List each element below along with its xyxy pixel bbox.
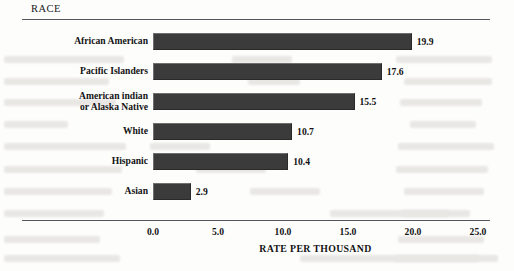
bar-and-value: 19.9 — [153, 26, 433, 56]
bar-category-label: White — [123, 116, 153, 146]
x-axis-tick-label: 15.0 — [318, 226, 378, 237]
x-axis-tick-label: 10.0 — [253, 226, 313, 237]
x-axis-title: RATE PER THOUSAND — [153, 243, 478, 254]
bar-and-value: 10.4 — [153, 146, 310, 176]
bar-row: White10.7 — [0, 116, 514, 146]
bar — [153, 63, 382, 80]
bar-value-label: 10.7 — [297, 126, 314, 137]
x-axis-tick-label: 25.0 — [448, 226, 508, 237]
bar-row: Asian2.9 — [0, 176, 514, 206]
bar-category-label-line: White — [123, 125, 148, 137]
bar-category-label-line: Asian — [125, 185, 148, 197]
bar — [153, 33, 412, 50]
bar — [153, 153, 288, 170]
bar-value-label: 17.6 — [387, 66, 404, 77]
race-rate-bar-chart: RACE RATE PER THOUSAND African American1… — [0, 0, 514, 271]
bar-category-label-line: African American — [74, 35, 148, 47]
bar-row: African American19.9 — [0, 26, 514, 56]
bar-and-value: 2.9 — [153, 176, 208, 206]
bar-row: Hispanic10.4 — [0, 146, 514, 176]
bar-category-label-line: or Alaska Native — [80, 101, 148, 113]
bar-category-label-line: Pacific Islanders — [80, 65, 148, 77]
bar-row: American indianor Alaska Native15.5 — [0, 86, 514, 116]
bar-value-label: 15.5 — [360, 96, 377, 107]
bar-value-label: 10.4 — [293, 156, 310, 167]
bar-category-label: African American — [74, 26, 153, 56]
x-axis-tick-label: 0.0 — [123, 226, 183, 237]
bar-category-label: American indianor Alaska Native — [79, 86, 153, 116]
bar-category-label: Asian — [125, 176, 153, 206]
bar-category-label: Pacific Islanders — [80, 56, 153, 86]
bar-and-value: 10.7 — [153, 116, 314, 146]
top-rule-divider — [22, 19, 490, 20]
bar-category-label-line: Hispanic — [112, 155, 148, 167]
x-axis-line — [22, 220, 490, 221]
bar-and-value: 17.6 — [153, 56, 404, 86]
bar — [153, 123, 292, 140]
bar — [153, 93, 355, 110]
bar-and-value: 15.5 — [153, 86, 376, 116]
bar-value-label: 2.9 — [196, 186, 208, 197]
bar-category-label: Hispanic — [112, 146, 153, 176]
chart-group-title: RACE — [31, 3, 61, 14]
bar-category-label-line: American indian — [79, 90, 148, 102]
x-axis-tick-label: 5.0 — [188, 226, 248, 237]
bar-value-label: 19.9 — [417, 36, 434, 47]
bar — [153, 183, 191, 200]
bar-row: Pacific Islanders17.6 — [0, 56, 514, 86]
x-axis-tick-label: 20.0 — [383, 226, 443, 237]
